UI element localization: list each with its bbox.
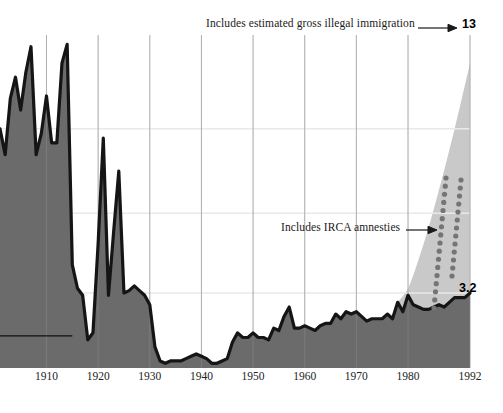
x-tick-1960: 1960 <box>293 370 316 382</box>
x-tick-1930: 1930 <box>138 370 161 382</box>
irca-dot <box>454 225 459 230</box>
irca-dot <box>451 257 456 262</box>
irca-dot <box>455 217 460 222</box>
irca-dot <box>433 289 438 294</box>
irca-dot <box>436 257 441 262</box>
x-tick-1970: 1970 <box>345 370 368 382</box>
x-tick-1992: 1992 <box>459 370 482 382</box>
irca-dot <box>442 192 447 197</box>
annotation-illegal-immigration: Includes estimated gross illegal immigra… <box>206 17 415 29</box>
irca-dot <box>450 265 455 270</box>
irca-dot <box>441 200 446 205</box>
irca-dot <box>431 305 436 310</box>
irca-dot <box>434 273 439 278</box>
irca-dot <box>435 265 440 270</box>
irca-dot <box>449 273 454 278</box>
x-axis-tick-labels: 191019201930194019501960197019801992 <box>0 370 503 392</box>
irca-dot <box>432 297 437 302</box>
irca-dot <box>439 224 444 229</box>
arrow-head-top <box>448 24 457 31</box>
irca-dot <box>453 233 458 238</box>
irca-dot <box>437 240 442 245</box>
irca-dot <box>452 241 457 246</box>
x-tick-1910: 1910 <box>35 370 58 382</box>
irca-dot <box>443 175 448 180</box>
chart-canvas: Includes estimated gross illegal immigra… <box>0 0 503 413</box>
x-tick-1920: 1920 <box>87 370 110 382</box>
x-tick-1980: 1980 <box>397 370 420 382</box>
irca-dot <box>434 281 439 286</box>
irca-dot <box>440 208 445 213</box>
irca-dot <box>438 232 443 237</box>
irca-dot <box>458 185 463 190</box>
irca-dot <box>440 216 445 221</box>
irca-dot <box>457 193 462 198</box>
immigration-area-chart <box>0 0 503 413</box>
annotation-irca-amnesties: Includes IRCA amnesties <box>281 221 400 233</box>
irca-dot <box>437 249 442 254</box>
irca-dot <box>443 184 448 189</box>
irca-dot <box>456 201 461 206</box>
irca-dot <box>458 177 463 182</box>
value-label-total-1992: 13 <box>462 17 476 31</box>
x-tick-1940: 1940 <box>190 370 213 382</box>
irca-dot <box>455 209 460 214</box>
value-label-legal-1992: 3.2 <box>459 281 476 295</box>
x-tick-1950: 1950 <box>242 370 265 382</box>
irca-dot <box>452 249 457 254</box>
